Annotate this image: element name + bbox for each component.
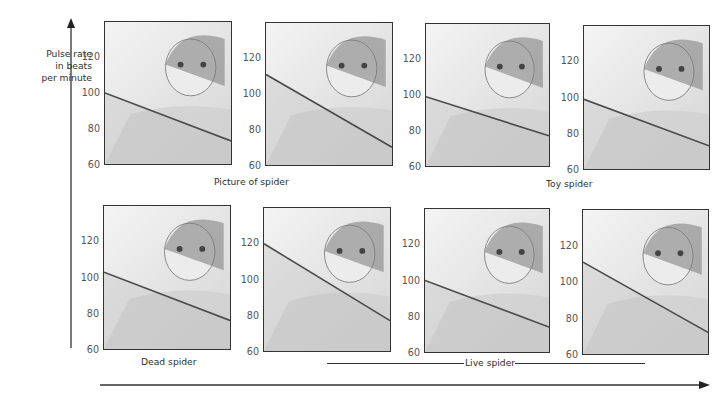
caption-dead-spider: Dead spider <box>141 356 197 367</box>
eye-sketch <box>679 66 685 72</box>
eye-sketch <box>361 63 367 69</box>
y-tick-label: 60 <box>556 349 578 360</box>
eye-sketch <box>656 66 662 72</box>
live-spider-bracket-right <box>515 363 645 364</box>
y-tick-label: 60 <box>77 344 99 355</box>
illustration-panel <box>424 208 550 353</box>
eye-sketch <box>678 250 684 256</box>
y-tick-label: 80 <box>399 125 421 136</box>
live-spider-bracket-left <box>327 363 464 364</box>
y-tick-label: 100 <box>556 276 578 287</box>
illustration-panel <box>263 207 391 352</box>
illustration-panel <box>265 22 393 166</box>
y-tick-label: 80 <box>556 313 578 324</box>
eye-sketch <box>200 62 206 68</box>
eye-sketch <box>359 248 365 254</box>
y-tick-label: 100 <box>557 92 579 103</box>
eye-sketch <box>339 63 345 69</box>
y-tick-label: 80 <box>557 128 579 139</box>
below-trend-shade <box>426 97 549 166</box>
y-tick-label: 100 <box>78 87 100 98</box>
y-tick-label: 60 <box>239 160 261 171</box>
y-tick-label: 60 <box>557 164 579 175</box>
eye-sketch <box>199 246 205 252</box>
y-tick-label: 120 <box>237 237 259 248</box>
eye-sketch <box>496 249 502 255</box>
illustration-panel <box>103 205 231 350</box>
y-tick-label: 80 <box>398 311 420 322</box>
eye-sketch <box>519 249 525 255</box>
y-tick-label: 100 <box>237 274 259 285</box>
y-tick-label: 120 <box>399 53 421 64</box>
y-tick-label: 60 <box>399 161 421 172</box>
y-tick-label: 100 <box>398 275 420 286</box>
x-axis-arrow <box>100 380 710 390</box>
y-tick-label: 80 <box>77 308 99 319</box>
eye-sketch <box>655 250 661 256</box>
caption-toy-spider: Toy spider <box>546 178 592 189</box>
eye-sketch <box>337 248 343 254</box>
y-tick-label: 120 <box>239 52 261 63</box>
eye-sketch <box>178 62 184 68</box>
illustration-panel <box>583 25 710 170</box>
y-tick-label: 120 <box>398 238 420 249</box>
y-tick-label: 60 <box>398 347 420 358</box>
y-tick-label: 120 <box>556 240 578 251</box>
y-tick-label: 120 <box>77 235 99 246</box>
y-tick-label: 120 <box>78 51 100 62</box>
y-tick-label: 60 <box>237 346 259 357</box>
caption-live-spider: Live spider <box>465 357 515 368</box>
y-tick-label: 60 <box>78 159 100 170</box>
caption-picture-of-spider: Picture of spider <box>214 176 289 187</box>
y-tick-label: 80 <box>237 310 259 321</box>
illustration-panel <box>582 209 709 355</box>
y-tick-label: 80 <box>78 123 100 134</box>
y-tick-label: 100 <box>77 272 99 283</box>
eye-sketch <box>519 64 525 70</box>
illustration-panel <box>425 23 550 167</box>
eye-sketch <box>177 246 183 252</box>
y-tick-label: 100 <box>239 88 261 99</box>
y-tick-label: 120 <box>557 55 579 66</box>
illustration-panel <box>104 21 232 165</box>
y-tick-label: 80 <box>239 124 261 135</box>
y-tick-label: 100 <box>399 89 421 100</box>
eye-sketch <box>497 64 503 70</box>
